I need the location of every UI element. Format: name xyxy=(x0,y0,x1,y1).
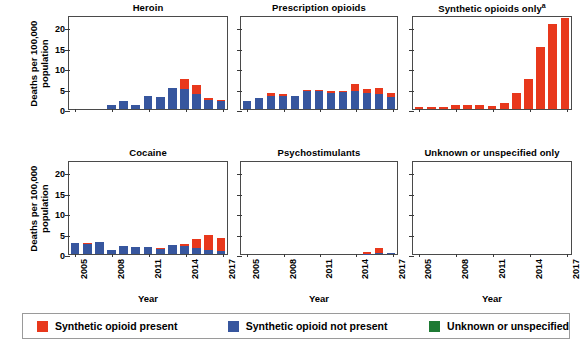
bar-segment-synthetic-present xyxy=(512,93,521,109)
bar-slot xyxy=(425,17,437,109)
bar-slot xyxy=(462,162,474,254)
x-axis-tick-label: 2011 xyxy=(497,259,507,279)
y-axis-tick xyxy=(409,256,414,257)
stacked-bar xyxy=(131,247,140,254)
bar-segment-synthetic-not-present xyxy=(339,92,348,109)
bar-slot xyxy=(81,17,93,109)
bar-slot xyxy=(425,162,437,254)
stacked-bar xyxy=(192,239,201,254)
bar-segment-synthetic-present xyxy=(536,47,545,109)
bar-slot xyxy=(277,17,289,109)
stacked-bar xyxy=(327,91,336,109)
y-axis-tick-label: 5 xyxy=(60,86,65,96)
x-axis-tick xyxy=(320,254,321,257)
bar-series-group xyxy=(241,17,397,109)
bar-slot xyxy=(486,17,498,109)
x-axis-tick xyxy=(493,109,494,112)
bar-segment-synthetic-not-present xyxy=(327,93,336,109)
y-axis-tick-label: 10 xyxy=(55,210,65,220)
x-axis-tick-label: 2008 xyxy=(460,259,470,279)
bar-segment-synthetic-not-present xyxy=(315,91,324,109)
bar-slot xyxy=(203,17,215,109)
x-axis-tick-label: 2017 xyxy=(227,259,237,279)
stacked-bar xyxy=(387,253,396,254)
bar-segment-synthetic-not-present xyxy=(243,101,252,109)
x-axis-tick-label: 2017 xyxy=(397,259,407,279)
x-axis-label: Year xyxy=(412,293,572,304)
x-axis-tick-label: 2008 xyxy=(116,259,126,279)
stacked-bar xyxy=(339,91,348,109)
x-axis-tick-label: 2005 xyxy=(423,259,433,279)
x-axis-tick xyxy=(493,254,494,257)
bar-slot xyxy=(241,17,253,109)
x-axis-tick-label: 2008 xyxy=(288,259,298,279)
bar-segment-synthetic-not-present xyxy=(131,105,140,109)
bar-slot xyxy=(349,162,361,254)
bar-segment-synthetic-present xyxy=(524,79,533,109)
y-axis-tick xyxy=(237,111,242,112)
plot-area: 0510152020052008201120142017 xyxy=(68,161,228,255)
stacked-bar xyxy=(475,105,484,109)
panel-title: Synthetic opioids onlya xyxy=(412,2,572,14)
stacked-bar xyxy=(95,242,104,254)
stacked-bar xyxy=(439,107,448,109)
bar-segment-synthetic-not-present xyxy=(204,100,213,109)
stacked-bar xyxy=(267,93,276,109)
panel-title: Psychostimulants xyxy=(240,147,398,158)
stacked-bar xyxy=(119,246,128,254)
legend-item-red[interactable]: Synthetic opioid present xyxy=(23,320,214,332)
bar-segment-synthetic-not-present xyxy=(351,91,360,109)
bar-slot xyxy=(413,17,425,109)
legend-item-blue[interactable]: Synthetic opioid not present xyxy=(214,320,415,332)
bar-segment-synthetic-not-present xyxy=(291,96,300,109)
y-axis-tick-label: 15 xyxy=(55,190,65,200)
bar-slot xyxy=(498,17,510,109)
legend-item-green[interactable]: Unknown or unspecified xyxy=(415,320,569,332)
stacked-bar xyxy=(291,96,300,109)
bar-slot xyxy=(437,17,449,109)
stacked-bar xyxy=(500,103,509,109)
plot-area: 20052008201120142017 xyxy=(412,161,572,255)
stacked-bar xyxy=(217,238,226,254)
x-axis-tick xyxy=(112,109,113,112)
bar-segment-synthetic-present xyxy=(351,84,360,91)
bar-slot xyxy=(215,17,227,109)
y-axis-tick xyxy=(65,111,70,112)
bar-segment-synthetic-not-present xyxy=(363,93,372,109)
x-axis-tick xyxy=(75,254,76,257)
bar-slot xyxy=(559,162,571,254)
bar-segment-synthetic-not-present xyxy=(267,96,276,109)
bar-slot xyxy=(277,162,289,254)
bar-segment-synthetic-present xyxy=(204,235,213,250)
bar-slot xyxy=(191,17,203,109)
x-axis-tick-label: 2014 xyxy=(360,259,370,279)
x-axis-tick xyxy=(567,109,568,112)
bar-slot xyxy=(154,162,166,254)
bar-segment-synthetic-not-present xyxy=(119,246,128,254)
x-axis-tick xyxy=(530,254,531,257)
bar-segment-synthetic-present xyxy=(192,239,201,248)
panel-title: Cocaine xyxy=(68,147,228,158)
stacked-bar xyxy=(351,84,360,109)
stacked-bar xyxy=(548,24,557,109)
plot-area: 05101520 xyxy=(68,16,228,110)
x-axis-tick xyxy=(419,254,420,257)
x-axis-tick-label: 2011 xyxy=(324,259,334,279)
bar-slot xyxy=(142,17,154,109)
x-axis-tick xyxy=(393,254,394,257)
bar-slot xyxy=(166,17,178,109)
bar-segment-synthetic-not-present xyxy=(279,96,288,109)
bar-slot xyxy=(373,162,385,254)
bar-slot xyxy=(325,162,337,254)
bar-segment-synthetic-present xyxy=(439,107,448,109)
bar-slot xyxy=(105,17,117,109)
figure-root: Heroin05101520Deaths per 100,000 populat… xyxy=(0,0,586,349)
panel-title: Heroin xyxy=(68,2,228,13)
stacked-bar xyxy=(156,248,165,254)
bar-segment-synthetic-present xyxy=(427,107,436,109)
bar-slot xyxy=(69,162,81,254)
stacked-bar xyxy=(255,98,264,109)
x-axis-tick-label: 2005 xyxy=(79,259,89,279)
x-axis-tick xyxy=(284,109,285,112)
bar-slot xyxy=(486,162,498,254)
